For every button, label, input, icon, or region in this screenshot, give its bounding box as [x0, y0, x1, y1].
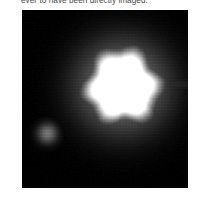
astronomical-image — [22, 10, 188, 188]
figure-caption-clipped: ever to have been directly imaged. — [0, 0, 202, 7]
figure-caption-text: ever to have been directly imaged. — [21, 0, 148, 6]
astronomical-image-canvas — [22, 10, 188, 188]
